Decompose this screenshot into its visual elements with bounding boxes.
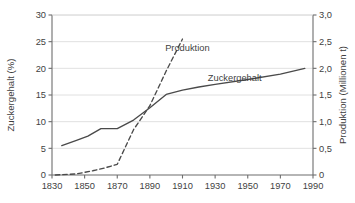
y-tick-label-right: 1,5 xyxy=(319,90,332,100)
series-line-zuckergehalt xyxy=(62,68,305,145)
series-labels: ZuckergehaltProduktion xyxy=(165,43,262,83)
data-series xyxy=(55,39,305,175)
x-tick-label: 1910 xyxy=(172,181,193,191)
y-tick-label-left: 10 xyxy=(36,117,46,127)
x-axis: 183018501870189019101930195019701990 xyxy=(42,175,324,191)
y-tick-label-left: 15 xyxy=(36,90,46,100)
chart-container: 05101520253000,51,01,52,02,53,0183018501… xyxy=(0,0,355,203)
y-axis-right: 00,51,01,52,02,53,0 xyxy=(313,10,332,180)
x-tick-label: 1890 xyxy=(140,181,161,191)
x-tick-label: 1930 xyxy=(205,181,226,191)
x-tick-label: 1830 xyxy=(42,181,63,191)
y-axis-title-left: Zuckergehalt (%) xyxy=(5,58,16,131)
series-line-produktion xyxy=(55,39,182,175)
series-label-produktion: Produktion xyxy=(165,43,209,53)
gridlines xyxy=(52,15,313,148)
x-tick-label: 1850 xyxy=(74,181,95,191)
sugar-production-line-chart: 05101520253000,51,01,52,02,53,0183018501… xyxy=(0,0,355,203)
y-tick-label-left: 25 xyxy=(36,37,46,47)
y-tick-label-left: 0 xyxy=(41,170,46,180)
y-tick-label-right: 1,0 xyxy=(319,117,332,127)
series-label-zuckergehalt: Zuckergehalt xyxy=(208,73,262,83)
y-tick-label-left: 5 xyxy=(41,144,46,154)
y-tick-label-right: 0,5 xyxy=(319,144,332,154)
x-tick-label: 1970 xyxy=(270,181,291,191)
x-tick-label: 1870 xyxy=(107,181,128,191)
y-tick-label-right: 2,0 xyxy=(319,64,332,74)
x-tick-label: 1950 xyxy=(237,181,258,191)
y-tick-label-right: 2,5 xyxy=(319,37,332,47)
y-tick-label-right: 0 xyxy=(319,170,324,180)
y-tick-label-left: 30 xyxy=(36,10,46,20)
y-axis-title-right: Produktion (Millionen t) xyxy=(337,46,348,144)
y-axis-left: 051015202530 xyxy=(36,10,52,180)
y-tick-label-right: 3,0 xyxy=(319,10,332,20)
y-tick-label-left: 20 xyxy=(36,64,46,74)
x-tick-label: 1990 xyxy=(303,181,324,191)
